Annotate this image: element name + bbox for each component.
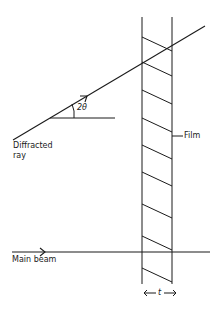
- film-hatching: [142, 37, 172, 282]
- angle-label: 2θ: [77, 104, 87, 112]
- hatch-line: [142, 145, 172, 159]
- diffraction-diagram: 2θ Diffracted ray Film Main beam t: [0, 0, 221, 310]
- hatch-line: [142, 118, 172, 132]
- diffracted-ray-line: [13, 26, 205, 140]
- film-label: Film: [184, 132, 200, 140]
- hatch-line: [142, 236, 172, 250]
- diffracted-ray-label-line2: ray: [13, 152, 26, 160]
- hatch-line: [142, 90, 172, 104]
- hatch-line: [142, 204, 172, 218]
- diffracted-ray-label-line1: Diffracted: [13, 142, 53, 150]
- thickness-label: t: [158, 289, 161, 297]
- thickness-left-arrow-icon: [144, 290, 156, 296]
- hatch-line: [142, 62, 172, 76]
- hatch-line: [142, 172, 172, 186]
- hatch-line: [142, 268, 172, 282]
- main-beam-label: Main beam: [12, 256, 56, 264]
- angle-arc: [72, 104, 74, 118]
- thickness-right-arrow-icon: [164, 290, 176, 296]
